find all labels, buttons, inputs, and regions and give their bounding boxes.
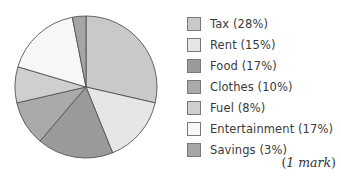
legend-item-savings: Savings (3%) [187,140,287,160]
mark-text: 1 mark [286,155,331,170]
legend-item-fuel: Fuel (8%) [187,98,265,118]
legend-label: Tax (28%) [210,17,268,31]
legend-label: Fuel (8%) [210,101,265,115]
legend-swatch [187,17,201,31]
legend-label: Entertainment (17%) [210,122,333,136]
legend-label: Food (17%) [210,59,277,73]
legend-label: Savings (3%) [210,143,287,157]
legend-swatch [187,122,201,136]
legend-label: Rent (15%) [210,38,276,52]
legend-item-clothes: Clothes (10%) [187,77,293,97]
legend-item-rent: Rent (15%) [187,35,276,55]
legend-item-tax: Tax (28%) [187,14,268,34]
legend-swatch [187,38,201,52]
legend-swatch [187,59,201,73]
legend-swatch [187,143,201,157]
legend-swatch [187,101,201,115]
legend-item-food: Food (17%) [187,56,277,76]
legend-item-entertainment: Entertainment (17%) [187,119,333,139]
mark-allocation: (1 mark) [281,155,336,170]
legend-label: Clothes (10%) [210,80,293,94]
mark-close-paren: ) [331,155,336,170]
pie-chart [0,0,180,178]
legend-swatch [187,80,201,94]
